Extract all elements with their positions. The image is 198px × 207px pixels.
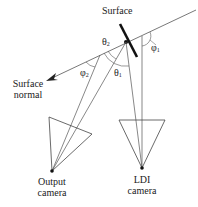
theta2-subscript: 2 — [107, 41, 110, 47]
theta2-arc — [108, 51, 116, 59]
output-camera-label-line2: camera — [30, 187, 74, 198]
phi1-arc — [142, 32, 151, 46]
ldi-camera-label-line1: LDI — [122, 174, 162, 185]
theta1-arc — [104, 53, 129, 66]
output-camera-point — [50, 169, 54, 173]
surface-bar — [120, 24, 137, 57]
ray-to-ldi-camera — [126, 42, 142, 168]
surface-normal-label: Surface normal — [3, 78, 53, 100]
ldi-camera-label-line2: camera — [122, 185, 162, 196]
theta2-label: θ2 — [102, 36, 110, 50]
output-camera-label: Output camera — [30, 176, 74, 198]
theta1-subscript: 1 — [119, 72, 122, 78]
phi1-subscript: 1 — [157, 47, 160, 53]
phi2-label: φ2 — [80, 67, 89, 81]
phi1-label: φ1 — [151, 42, 160, 56]
surface-normal-label-line2: normal — [3, 89, 53, 100]
diagram: Surface Surface normal Output camera LDI… — [0, 0, 198, 207]
ldi-camera-label: LDI camera — [122, 174, 162, 196]
ray-to-output-camera — [52, 42, 126, 171]
normal-line — [50, 10, 196, 79]
ray2-to-output-camera — [52, 55, 100, 171]
theta1-label: θ1 — [114, 67, 122, 81]
surface-label: Surface — [102, 5, 133, 16]
output-camera-label-line1: Output — [30, 176, 74, 187]
phi2-subscript: 2 — [86, 72, 89, 78]
ldi-camera-point — [140, 166, 144, 170]
surface-normal-label-line1: Surface — [3, 78, 53, 89]
